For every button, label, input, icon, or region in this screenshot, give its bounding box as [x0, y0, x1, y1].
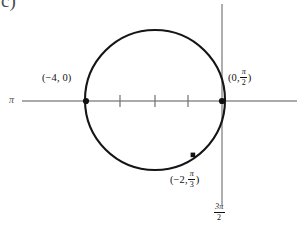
- fraction-pi-over-2: π2: [240, 68, 247, 87]
- fraction-numerator: π: [240, 68, 247, 78]
- fraction-denominator: 3: [188, 180, 195, 189]
- point-marker-left-intersection: [83, 98, 89, 104]
- axis-label-vertical-bottom: 3π2: [213, 203, 225, 222]
- fraction-denominator: 2: [240, 78, 247, 87]
- point-label-suffix: ): [248, 71, 252, 83]
- fraction-3pi-over-2: 3π2: [214, 203, 225, 222]
- axis-label-horizontal: π: [9, 95, 14, 105]
- fraction-pi-over-3: π3: [188, 170, 195, 189]
- point-label-left-intersection: (−4, 0): [42, 73, 71, 84]
- part-label: c): [1, 0, 16, 10]
- point-label-prefix: (0,: [228, 72, 240, 83]
- point-label-pole-right: (0,π2): [228, 68, 252, 87]
- point-label-prefix: (−2,: [170, 174, 188, 185]
- point-label-suffix: ): [196, 173, 200, 185]
- point-label-arc-point: (−2,π3): [170, 170, 200, 189]
- fraction-denominator: 2: [214, 213, 225, 222]
- polar-graph-figure: c) π (−4, 0) (0,π2) (−2,π3) 3π2: [0, 0, 297, 237]
- figure-canvas: [0, 0, 297, 237]
- fraction-numerator: 3π: [214, 203, 225, 213]
- point-marker-arc-point: [191, 153, 196, 158]
- point-marker-pole-right: [219, 98, 225, 104]
- fraction-numerator: π: [188, 170, 195, 180]
